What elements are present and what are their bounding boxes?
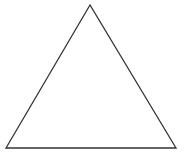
diagram-canvas [0, 0, 184, 161]
triangle-shape [6, 5, 176, 148]
